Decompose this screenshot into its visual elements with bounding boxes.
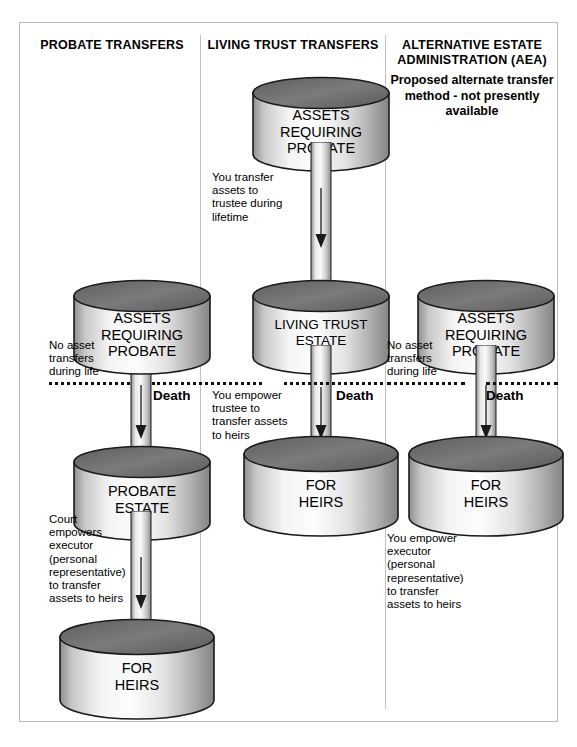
death-label: Death	[336, 388, 374, 403]
annotation-you-empower-executor: You empower executor (personal represent…	[387, 532, 477, 611]
annotation-no-asset-transfers-probate: No asset transfers during life	[49, 339, 127, 379]
column-title-alternative-estate-administration: ALTERNATIVE ESTATE ADMINISTRATION (AEA)	[386, 38, 558, 68]
death-dotted-line-segment	[284, 382, 383, 385]
death-label: Death	[153, 388, 191, 403]
annotation-you-transfer-assets: You transfer assets to trustee during li…	[212, 171, 302, 224]
cylinder-aea-for-heirs: FOR HEIRS	[407, 435, 565, 541]
annotation-court-empowers-executor: Court empowers executor (personal repres…	[49, 513, 129, 605]
cylinder-probate-for-heirs: FOR HEIRS	[58, 618, 216, 724]
column-title-probate-transfers: PROBATE TRANSFERS	[24, 38, 200, 53]
death-dotted-line-segment	[387, 382, 465, 385]
annotation-no-asset-transfers-aea: No asset transfers during life	[387, 339, 467, 379]
column-header-probate-transfers: PROBATE TRANSFERS	[24, 38, 200, 53]
death-dotted-line-segment	[152, 382, 262, 385]
column-header-living-trust-transfers: LIVING TRUST TRANSFERS	[201, 38, 385, 53]
stem-trust-assets-to-estate	[308, 142, 334, 282]
column-title-living-trust-transfers: LIVING TRUST TRANSFERS	[201, 38, 385, 53]
column-header-alternative-estate-administration: ALTERNATIVE ESTATE ADMINISTRATION (AEA) …	[386, 38, 558, 120]
annotation-you-empower-trustee: You empower trustee to transfer assets t…	[212, 389, 310, 442]
cylinder-trust-for-heirs: FOR HEIRS	[242, 435, 400, 541]
death-dotted-line-segment	[486, 382, 558, 385]
diagram-frame: PROBATE TRANSFERS LIVING TRUST TRANSFERS…	[19, 22, 558, 722]
column-subtitle-alternative-estate-administration: Proposed alternate transfer method - not…	[386, 73, 558, 120]
death-label: Death	[486, 388, 524, 403]
death-dotted-line-segment	[49, 382, 130, 385]
